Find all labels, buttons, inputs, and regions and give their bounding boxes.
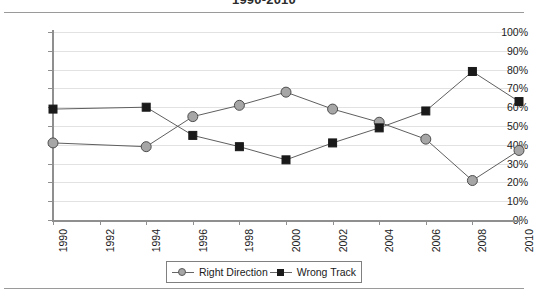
data-point[interactable] xyxy=(189,131,197,139)
data-point[interactable] xyxy=(142,103,150,111)
legend-item-right-direction[interactable]: Right Direction xyxy=(172,266,268,278)
data-point[interactable] xyxy=(234,100,244,110)
data-point[interactable] xyxy=(141,142,151,152)
bottom-divider xyxy=(4,288,524,289)
legend-label: Wrong Track xyxy=(297,266,356,278)
data-point[interactable] xyxy=(281,87,291,97)
circle-marker-icon xyxy=(172,267,194,278)
data-point[interactable] xyxy=(467,176,477,186)
data-point[interactable] xyxy=(329,139,337,147)
data-point[interactable] xyxy=(282,156,290,164)
series-line-right-direction xyxy=(53,92,519,180)
data-point[interactable] xyxy=(188,112,198,122)
legend-item-wrong-track[interactable]: Wrong Track xyxy=(270,266,356,278)
data-point[interactable] xyxy=(235,143,243,151)
data-point[interactable] xyxy=(468,67,476,75)
data-point[interactable] xyxy=(515,98,523,106)
data-point[interactable] xyxy=(328,104,338,114)
chart-legend: Right Direction Wrong Track xyxy=(166,261,362,283)
data-point[interactable] xyxy=(49,105,57,113)
data-point[interactable] xyxy=(375,124,383,132)
legend-label: Right Direction xyxy=(199,266,268,278)
data-point[interactable] xyxy=(422,107,430,115)
series-line-wrong-track xyxy=(53,71,519,159)
square-marker-icon xyxy=(270,267,292,278)
data-point[interactable] xyxy=(514,145,524,155)
data-point[interactable] xyxy=(421,134,431,144)
data-point[interactable] xyxy=(48,138,58,148)
